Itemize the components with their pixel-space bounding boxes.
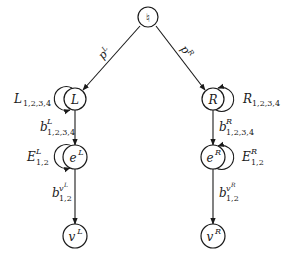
svg-text:1,2,3,4: 1,2,3,4: [226, 128, 254, 137]
node-R: R: [202, 88, 224, 110]
svg-text:1,2,3,4: 1,2,3,4: [23, 99, 51, 108]
svg-text:R: R: [230, 181, 236, 188]
svg-text:L: L: [46, 117, 52, 126]
svg-text:L: L: [35, 147, 41, 156]
loop-label-EL: E L 1,2: [26, 147, 49, 167]
node-root-label: ♮: [146, 11, 150, 25]
node-L-label: L: [70, 93, 79, 107]
node-vR: v R: [201, 224, 225, 248]
svg-text:1,2: 1,2: [251, 158, 264, 167]
node-eR-base: e: [206, 151, 213, 165]
node-vL: v L: [63, 224, 87, 248]
edge-label-bvL: b v L 1,2: [52, 181, 72, 203]
svg-text:1,2,3,4: 1,2,3,4: [252, 99, 280, 108]
edge-label-bL: b L 1,2,3,4: [40, 117, 75, 137]
node-vR-sup: R: [214, 227, 221, 236]
node-root: ♮: [138, 7, 158, 27]
svg-text:1,2,3,4: 1,2,3,4: [47, 128, 75, 137]
svg-text:R: R: [250, 147, 257, 156]
node-vL-sup: L: [76, 227, 82, 236]
edge-root-to-L: [83, 26, 140, 90]
node-R-label: R: [207, 93, 217, 107]
edge-root-to-R: [156, 26, 205, 90]
svg-text:E: E: [241, 150, 251, 164]
graph-diagram: ♮ L e L v L R e R v R p L p R b L: [0, 0, 290, 259]
node-L: L: [64, 88, 86, 110]
svg-text:R: R: [242, 92, 252, 106]
node-eR-sup: R: [214, 148, 221, 157]
node-eL-sup: L: [77, 148, 83, 157]
svg-text:1,2: 1,2: [59, 194, 72, 203]
svg-text:L: L: [13, 92, 22, 106]
svg-text:L: L: [63, 181, 68, 188]
node-eL-base: e: [69, 151, 76, 165]
node-eL: e L: [63, 145, 87, 169]
edge-label-bvR: b v R 1,2: [219, 181, 239, 203]
loop-label-L: L 1,2,3,4: [13, 92, 51, 108]
svg-text:1,2: 1,2: [36, 158, 49, 167]
svg-text:1,2: 1,2: [226, 194, 239, 203]
edge-label-bR: b R 1,2,3,4: [219, 117, 254, 137]
loop-label-R: R 1,2,3,4: [242, 92, 280, 108]
node-vR-base: v: [207, 230, 214, 244]
svg-text:R: R: [225, 117, 232, 126]
svg-text:E: E: [26, 150, 36, 164]
loop-label-ER: E R 1,2: [241, 147, 264, 167]
node-vL-base: v: [69, 230, 76, 244]
node-eR: e R: [201, 145, 225, 169]
